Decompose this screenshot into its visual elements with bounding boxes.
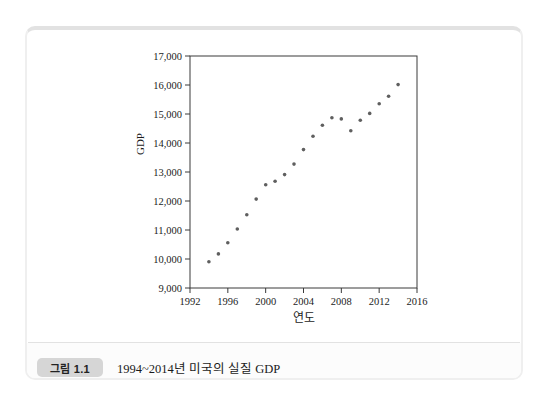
data-point <box>264 183 268 187</box>
y-tick-label: 9,000 <box>158 283 182 294</box>
data-point <box>330 116 334 120</box>
data-point <box>349 129 353 133</box>
page: 9,00010,00011,00012,00013,00014,00015,00… <box>0 0 555 401</box>
data-point <box>359 119 363 123</box>
y-tick-label: 15,000 <box>153 109 182 120</box>
figure-panel: 9,00010,00011,00012,00013,00014,00015,00… <box>25 26 523 380</box>
y-tick-label: 12,000 <box>153 196 182 207</box>
data-point <box>283 173 287 177</box>
data-point <box>387 95 391 99</box>
x-tick-label: 2008 <box>331 296 352 307</box>
y-tick-label: 17,000 <box>153 51 182 62</box>
data-point <box>302 148 306 152</box>
data-point <box>207 260 211 264</box>
x-tick-label: 2000 <box>255 296 276 307</box>
caption-strip: 그림 1.1 1994~2014년 미국의 실질 GDP <box>27 343 521 378</box>
data-point <box>396 83 400 87</box>
data-point <box>236 227 240 231</box>
data-point <box>311 134 315 138</box>
y-tick-label: 11,000 <box>154 225 183 236</box>
data-point <box>321 123 325 127</box>
data-point <box>217 252 221 256</box>
x-tick-label: 1996 <box>217 296 238 307</box>
gdp-scatter-chart: 9,00010,00011,00012,00013,00014,00015,00… <box>130 45 442 335</box>
data-point <box>377 102 381 106</box>
y-tick-label: 13,000 <box>153 167 182 178</box>
x-tick-label: 2016 <box>407 296 428 307</box>
plot-frame <box>190 56 417 288</box>
data-point <box>245 213 249 217</box>
y-tick-label: 14,000 <box>153 138 182 149</box>
data-point <box>368 112 372 116</box>
figure-caption: 1994~2014년 미국의 실질 GDP <box>117 358 280 377</box>
data-point <box>226 241 230 245</box>
x-tick-label: 1992 <box>180 296 201 307</box>
y-tick-label: 16,000 <box>153 80 182 91</box>
x-tick-label: 2004 <box>293 296 315 307</box>
x-tick-label: 2012 <box>369 296 390 307</box>
y-axis-title: GDP <box>134 133 146 155</box>
x-axis-title: 연도 <box>293 311 315 325</box>
data-point <box>254 197 258 201</box>
data-point <box>340 117 344 121</box>
data-point <box>273 179 277 183</box>
data-point <box>292 162 296 166</box>
figure-number-badge: 그림 1.1 <box>37 358 103 377</box>
y-tick-label: 10,000 <box>153 254 182 265</box>
